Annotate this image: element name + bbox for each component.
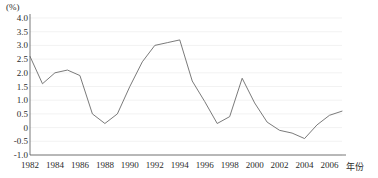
chart-container: (%) 4.03.53.02.52.01.51.00.50-0.5-1.0 19… [0, 0, 378, 178]
axis-lines [30, 14, 346, 155]
data-series-line [30, 40, 342, 139]
plot-area [0, 0, 378, 178]
